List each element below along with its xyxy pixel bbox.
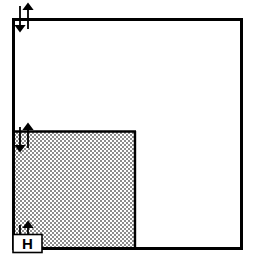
h-label-box: H [13, 235, 42, 253]
figure-root: H [0, 0, 257, 263]
h-label-text: H [22, 235, 33, 252]
nested-square-diagram: H [0, 0, 257, 263]
inner-shaded-square [13, 132, 135, 249]
